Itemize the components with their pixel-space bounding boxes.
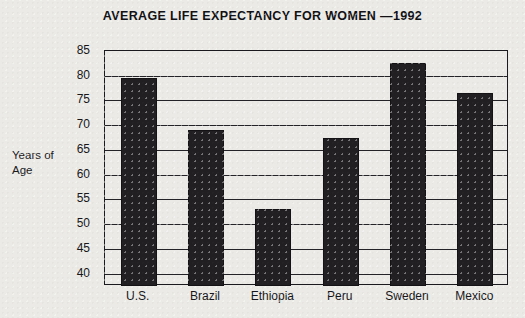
y-tick-label-50: 50 <box>77 216 90 230</box>
bar-peru <box>323 138 359 286</box>
bars-layer <box>105 51 507 284</box>
x-label-peru: Peru <box>327 289 352 303</box>
plot-area <box>104 50 508 285</box>
y-tick-label-80: 80 <box>77 68 90 82</box>
bar-brazil <box>188 130 224 286</box>
x-axis-category-labels: U.S.BrazilEthiopiaPeruSwedenMexico <box>104 289 508 311</box>
y-tick-label-65: 65 <box>77 142 90 156</box>
y-tick-label-60: 60 <box>77 167 90 181</box>
bar-mexico <box>457 93 493 286</box>
x-label-sweden: Sweden <box>385 289 428 303</box>
bar-chart-figure: AVERAGE LIFE EXPECTANCY FOR WOMEN —1992 … <box>0 0 525 318</box>
bar-sweden <box>390 63 426 286</box>
y-tick-label-75: 75 <box>77 92 90 106</box>
bar-u-s <box>121 78 157 286</box>
bar-ethiopia <box>255 209 291 286</box>
y-tick-label-45: 45 <box>77 241 90 255</box>
x-label-mexico: Mexico <box>455 289 493 303</box>
y-tick-label-70: 70 <box>77 117 90 131</box>
y-tick-label-40: 40 <box>77 266 90 280</box>
y-axis-tick-labels: 85807570656055504540 <box>0 50 98 285</box>
x-label-u-s: U.S. <box>126 289 149 303</box>
chart-title: AVERAGE LIFE EXPECTANCY FOR WOMEN —1992 <box>0 9 525 23</box>
y-tick-label-85: 85 <box>77 43 90 57</box>
y-tick-label-55: 55 <box>77 191 90 205</box>
x-label-ethiopia: Ethiopia <box>251 289 294 303</box>
x-label-brazil: Brazil <box>190 289 220 303</box>
